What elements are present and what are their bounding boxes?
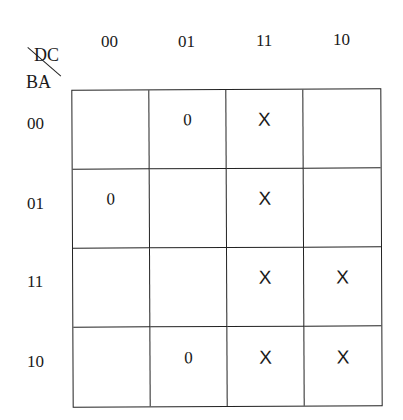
cell-r2-c2: X [227,248,304,327]
cell-value: 0 [106,189,115,209]
col-label-11: 11 [256,32,272,49]
cell-value: X [259,267,272,289]
cell-r0-c1: 0 [149,90,226,169]
cell-r3-c2: X [227,327,304,406]
cell-value: X [337,346,350,368]
row-label-10: 10 [27,353,44,370]
cell-r3-c0 [73,327,150,406]
cell-value: X [259,346,272,368]
row-label-01: 01 [27,195,44,212]
cell-r1-c2: X [227,169,304,248]
cell-r3-c3: X [304,326,381,405]
row-variable-label: BA [26,73,51,91]
column-variable-label: DC [34,46,59,64]
cell-r2-c3: X [304,247,381,326]
cell-r1-c3 [304,168,381,247]
col-label-10: 10 [333,31,350,48]
cell-r1-c1 [150,169,227,248]
cell-r1-c0: 0 [73,169,150,248]
kmap-grid: 0 X 0 X X X 0 X X [71,88,382,407]
row-label-00: 00 [27,115,44,132]
cell-r0-c2: X [226,90,303,169]
cell-r3-c1: 0 [150,327,227,406]
cell-value: X [258,109,271,131]
cell-r0-c0 [72,90,149,169]
cell-r0-c3 [303,89,380,168]
cell-value: X [258,188,271,210]
col-label-01: 01 [178,33,195,50]
cell-r2-c1 [150,248,227,327]
col-label-00: 00 [101,33,118,50]
cell-value: X [336,266,349,288]
row-label-11: 11 [27,273,43,290]
cell-r2-c0 [73,248,150,327]
cell-value: 0 [183,110,192,130]
cell-value: 0 [184,348,193,368]
